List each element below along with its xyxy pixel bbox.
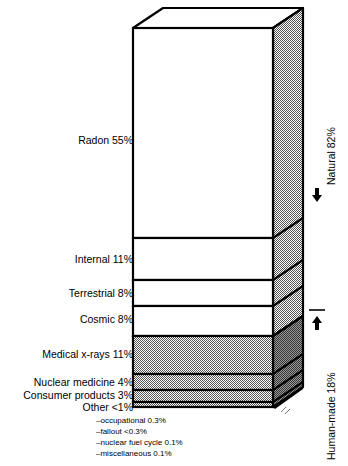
sub-item-miscellaneous: –miscellaneous 0.1% — [96, 449, 172, 458]
group-label-natural: Natural 82% — [325, 127, 337, 185]
segment-terrestrial — [133, 280, 273, 306]
group-marker-natural — [312, 188, 322, 202]
segment-cosmic — [133, 306, 273, 336]
segment-label-nuclear-medicine: Nuclear medicine 4% — [34, 377, 133, 388]
group-label-human-made: Human-made 18% — [325, 372, 337, 460]
segment-label-medical-xrays: Medical x-rays 11% — [42, 349, 133, 360]
sub-item-occupational: –occupational 0.3% — [96, 416, 166, 425]
segment-other — [133, 402, 273, 407]
segment-consumer-products — [133, 390, 273, 402]
segment-label-cosmic: Cosmic 8% — [80, 314, 133, 325]
group-marker-humanmade — [309, 310, 325, 330]
bar-side-face-natural — [273, 8, 303, 336]
segment-radon — [133, 28, 273, 238]
segment-label-internal: Internal 11% — [75, 254, 133, 265]
segment-label-consumer-products: Consumer products 3% — [23, 390, 133, 401]
segment-label-radon: Radon 55% — [78, 135, 133, 146]
bottom-corner-hatch — [281, 407, 290, 414]
arrow-up-icon — [312, 316, 322, 330]
arrow-down-icon — [312, 188, 322, 202]
segment-label-terrestrial: Terrestrial 8% — [69, 288, 133, 299]
bar-front-face — [133, 28, 273, 407]
segment-nuclear-medicine — [133, 374, 273, 390]
sub-item-fallout: –fallout <0.3% — [96, 427, 147, 436]
sub-item-nuclear-fuel-cycle: –nuclear fuel cycle 0.1% — [96, 438, 183, 447]
segment-internal — [133, 238, 273, 280]
segment-label-other: Other <1% — [83, 402, 134, 413]
segment-medical-xrays — [133, 336, 273, 374]
